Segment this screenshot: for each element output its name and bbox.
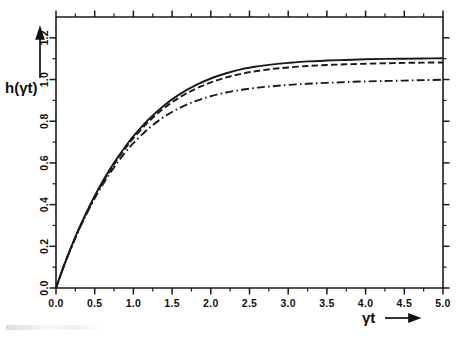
x-tick-label: 0.5: [87, 297, 103, 309]
curve-solid: [56, 58, 443, 288]
x-tick-label: 3.0: [280, 297, 296, 309]
data-curves: [56, 58, 443, 288]
right-axis-ticks: [443, 38, 450, 288]
x-tick-label: 4.0: [358, 297, 374, 309]
y-tick-label: 0.2: [38, 239, 50, 255]
y-tick-label: 0.6: [38, 155, 50, 171]
x-axis-ticks: [56, 288, 443, 295]
x-axis-title-group: γt: [362, 309, 419, 326]
x-axis-title: γt: [362, 309, 375, 326]
top-axis-ticks: [56, 11, 443, 18]
x-tick-label: 0.0: [48, 297, 64, 309]
y-axis-ticks: [50, 38, 57, 288]
x-tick-label: 1.0: [126, 297, 142, 309]
x-axis-tick-labels: 0.00.51.01.52.02.53.03.54.04.55.0: [48, 297, 451, 309]
x-tick-label: 1.5: [164, 297, 180, 309]
x-tick-label: 3.5: [319, 297, 335, 309]
y-axis-title: h(γt): [5, 79, 38, 96]
x-tick-label: 2.5: [242, 297, 258, 309]
curve-dashed: [56, 62, 443, 288]
y-tick-label: 0.8: [38, 113, 50, 129]
x-tick-label: 4.5: [397, 297, 413, 309]
y-tick-label: 0.0: [38, 280, 50, 296]
y-tick-label: 0.4: [38, 197, 50, 213]
curve-dash-dot: [56, 80, 443, 288]
x-tick-label: 2.0: [203, 297, 219, 309]
caption-smudge: [6, 325, 102, 330]
chart-svg: 0.00.51.01.52.02.53.03.54.04.55.0 0.00.2…: [0, 0, 462, 337]
figure-container: 0.00.51.01.52.02.53.03.54.04.55.0 0.00.2…: [0, 0, 462, 337]
x-tick-label: 5.0: [435, 297, 451, 309]
plot-frame: [56, 17, 443, 288]
